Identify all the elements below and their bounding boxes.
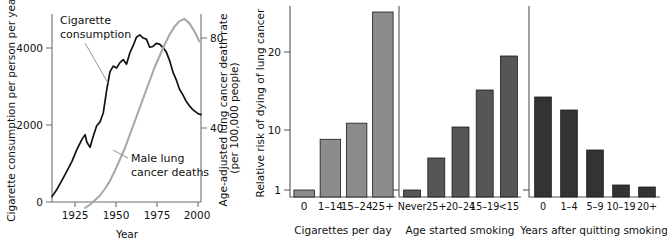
figure-smoking-lung-cancer: 4000 2000 0 80 40 1925 1950 1975 2000 Ye… bbox=[0, 0, 667, 244]
panel1-xtick-1975: 1975 bbox=[144, 209, 171, 221]
panel1-xtick-1925: 1925 bbox=[62, 209, 89, 221]
bar bbox=[535, 97, 552, 197]
panel1-left-ticks bbox=[46, 48, 52, 202]
bar bbox=[500, 56, 517, 197]
bar bbox=[373, 12, 393, 197]
panel1-xlabel: Year bbox=[115, 228, 139, 240]
category-label: 25+ bbox=[372, 200, 394, 212]
bar bbox=[639, 187, 656, 197]
panel-cigarettes-per-day: 20 10 1 Relative risk of dying of lung c… bbox=[254, 6, 396, 236]
panel1-xtick-2000: 2000 bbox=[184, 209, 211, 221]
panel1-xtick-1950: 1950 bbox=[103, 209, 130, 221]
panel2-ytick-10: 10 bbox=[268, 124, 281, 136]
bar bbox=[587, 150, 604, 197]
panel3-xlabel: Age started smoking bbox=[405, 224, 514, 236]
panel4-bars bbox=[535, 97, 656, 197]
panel2-ylabel: Relative risk of dying of lung cancer bbox=[254, 8, 266, 197]
category-label: 15–19 bbox=[470, 201, 499, 212]
category-label: 0 bbox=[540, 201, 546, 212]
category-label: 0 bbox=[301, 200, 308, 212]
bar bbox=[404, 190, 421, 197]
category-label: 10–19 bbox=[606, 201, 635, 212]
annotation-cigarette-consumption-line1: Cigarette bbox=[60, 14, 111, 27]
panel2-ytick-1: 1 bbox=[274, 184, 281, 196]
annotation-cigarette-consumption-line2: consumption bbox=[60, 28, 131, 41]
panel2-ytick-20: 20 bbox=[268, 46, 281, 58]
category-label: 1–14 bbox=[318, 200, 344, 212]
bar bbox=[428, 158, 445, 197]
panel-age-started-smoking: Never25+20–2415–19<15 Age started smokin… bbox=[393, 6, 521, 236]
leader-cigarette-consumption bbox=[85, 43, 108, 83]
bar bbox=[346, 123, 366, 197]
category-label: <15 bbox=[499, 201, 519, 212]
panel3-bars bbox=[404, 56, 518, 197]
panel1-ytick-4000: 4000 bbox=[16, 42, 43, 54]
panel2-y-ticks bbox=[284, 52, 290, 190]
panel-years-after-quitting: 01–45–910–1920+ Years after quitting smo… bbox=[519, 6, 667, 236]
panel2-category-labels: 01–1415–2425+ bbox=[301, 200, 394, 212]
panel1-ylabel: Cigarette consumption per person per yea… bbox=[5, 0, 17, 222]
panel1-y2sublabel: (per 100,000 people) bbox=[228, 62, 240, 173]
bar bbox=[613, 185, 630, 197]
category-label: 5–9 bbox=[586, 201, 603, 212]
category-label: 20+ bbox=[637, 201, 657, 212]
bar bbox=[320, 139, 340, 197]
bar bbox=[452, 127, 469, 197]
panel3-category-labels: Never25+20–2415–19<15 bbox=[398, 201, 519, 212]
panel2-xlabel: Cigarettes per day bbox=[294, 224, 392, 236]
panel4-xlabel: Years after quitting smoking bbox=[519, 224, 667, 236]
bar bbox=[561, 110, 578, 197]
panel1-ytick-0: 0 bbox=[36, 196, 43, 208]
panel-line-chart: 4000 2000 0 80 40 1925 1950 1975 2000 Ye… bbox=[5, 0, 240, 240]
annotation-male-lung-cancer-line2: cancer deaths bbox=[131, 166, 209, 179]
category-label: Never bbox=[398, 201, 427, 212]
category-label: 15–24 bbox=[341, 200, 373, 212]
annotation-male-lung-cancer-line1: Male lung bbox=[131, 152, 185, 165]
panel1-ytick-2000: 2000 bbox=[16, 119, 43, 131]
bar bbox=[476, 90, 493, 197]
panel2-bars bbox=[294, 12, 393, 197]
panel4-category-labels: 01–45–910–1920+ bbox=[540, 201, 657, 212]
category-label: 1–4 bbox=[560, 201, 577, 212]
panel1-right-ticks bbox=[201, 38, 207, 128]
category-label: 25+ bbox=[426, 201, 446, 212]
figure-canvas: 4000 2000 0 80 40 1925 1950 1975 2000 Ye… bbox=[0, 0, 667, 244]
bar bbox=[294, 190, 314, 197]
